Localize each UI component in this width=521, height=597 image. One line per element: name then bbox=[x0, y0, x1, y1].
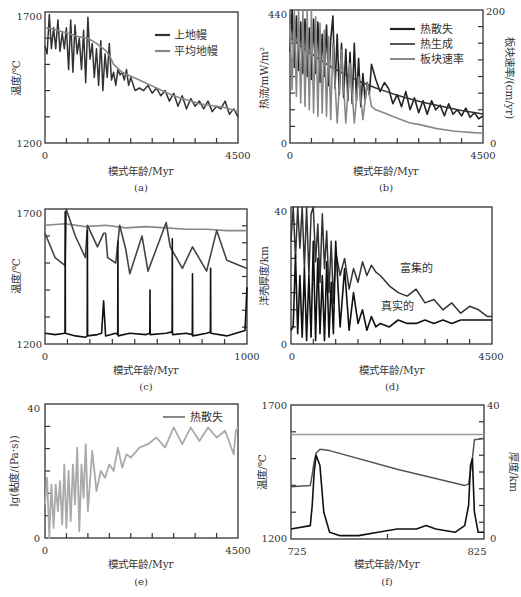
caption-e: (e) bbox=[134, 576, 148, 587]
ticks-c bbox=[45, 226, 247, 344]
ytick-bottom-a: 1200 bbox=[17, 138, 42, 149]
legend-item-mean-mantle: 平均地幔 bbox=[174, 45, 218, 58]
ylabel-a: 温度/℃ bbox=[10, 60, 22, 96]
series-e bbox=[45, 427, 238, 538]
ytick-right-top-f: 40 bbox=[487, 400, 500, 411]
series-line bbox=[45, 224, 247, 231]
xtick-right-b: 4500 bbox=[470, 150, 495, 161]
panel-d: 40 0 0 4500 洋壳厚度/km 模式年龄/Myr (d) 富集的 真实的 bbox=[258, 206, 504, 392]
panel-b: 440 0 200 0 0 4500 热流/mW/m² 板块速率/(cm/yr)… bbox=[258, 6, 516, 193]
xtick-left-f: 725 bbox=[287, 546, 306, 557]
xlabel-e: 模式年龄/Myr bbox=[108, 558, 174, 570]
xtick-left-c: 0 bbox=[42, 351, 48, 362]
ytick-top-a: 1700 bbox=[17, 11, 42, 22]
annotation-enriched: 富集的 bbox=[400, 261, 433, 275]
ytick-top-f: 1700 bbox=[262, 400, 287, 411]
ytick-top-d: 40 bbox=[274, 206, 287, 217]
xlabel-b: 模式年龄/Myr bbox=[353, 165, 419, 177]
ytick-bottom-c: 1200 bbox=[17, 339, 42, 350]
ytick-right-bottom-b: 0 bbox=[490, 138, 496, 149]
xtick-left-d: 0 bbox=[289, 351, 295, 362]
ytick-bottom-e: 0 bbox=[34, 533, 40, 544]
ylabel-b: 热流/mW/m² bbox=[258, 47, 270, 109]
series-c bbox=[45, 209, 247, 337]
legend-item-heat-loss-e: 热散失 bbox=[190, 410, 223, 424]
xtick-right-c: 1000 bbox=[234, 351, 259, 362]
series-f bbox=[291, 435, 484, 536]
xtick-right-f: 825 bbox=[467, 546, 486, 557]
ytick-right-top-b: 200 bbox=[486, 6, 505, 17]
panel-e: 40 0 0 4500 lg(黏度/(Pa·s)) 模式年龄/Myr (e) 热… bbox=[8, 403, 251, 587]
caption-c: (c) bbox=[139, 381, 153, 392]
ytick-bottom-b: 0 bbox=[281, 138, 287, 149]
figure-canvas: 1700 1200 0 4500 温度/℃ 模式年龄/Myr (a) 上地幔 平… bbox=[0, 0, 521, 597]
series-d bbox=[291, 207, 492, 341]
ticks-f bbox=[291, 422, 484, 539]
legend-a: 上地幔 平均地幔 bbox=[155, 29, 218, 58]
caption-a: (a) bbox=[134, 182, 148, 193]
ylabel-e: lg(黏度/(Pa·s)) bbox=[8, 435, 20, 507]
legend-item-heat-production: 热生成 bbox=[420, 37, 453, 51]
legend-item-upper-mantle: 上地幔 bbox=[174, 29, 207, 42]
series-a bbox=[45, 15, 238, 117]
plot-frame-a bbox=[45, 12, 238, 143]
legend-e: 热散失 bbox=[163, 410, 223, 424]
panel-c: 1700 1200 0 1000 温度/℃ 模式年龄/Myr (c) bbox=[10, 208, 260, 392]
panel-f: 1700 1200 40 0 725 825 温度/℃ 厚度/km 模式年龄/M… bbox=[256, 400, 520, 587]
annotation-real: 真实的 bbox=[381, 299, 414, 313]
ylabel-c: 温度/℃ bbox=[10, 258, 22, 294]
series-line bbox=[45, 15, 238, 117]
ylabel-right-b: 板块速率/(cm/yr) bbox=[504, 37, 516, 119]
ytick-bottom-f: 1200 bbox=[262, 533, 287, 544]
series-line bbox=[290, 10, 483, 133]
ytick-bottom-d: 0 bbox=[281, 339, 287, 350]
ylabel-f: 温度/℃ bbox=[256, 454, 268, 490]
caption-d: (d) bbox=[385, 381, 399, 392]
xtick-right-d: 4500 bbox=[478, 351, 503, 362]
ytick-top-b: 440 bbox=[268, 9, 287, 20]
series-line bbox=[45, 427, 238, 538]
panel-a: 1700 1200 0 4500 温度/℃ 模式年龄/Myr (a) 上地幔 平… bbox=[10, 11, 251, 193]
xlabel-d: 模式年龄/Myr bbox=[359, 364, 425, 376]
xtick-right-a: 4500 bbox=[225, 150, 250, 161]
xtick-left-a: 0 bbox=[42, 150, 48, 161]
series-b bbox=[290, 10, 483, 133]
xlabel-a: 模式年龄/Myr bbox=[108, 165, 174, 177]
xlabel-c: 模式年龄/Myr bbox=[113, 364, 179, 376]
ytick-top-c: 1700 bbox=[17, 208, 42, 219]
caption-b: (b) bbox=[379, 182, 393, 193]
ytick-top-e: 40 bbox=[27, 403, 40, 414]
legend-item-plate-speed: 板块速率 bbox=[420, 52, 464, 66]
ylabel-right-f: 厚度/km bbox=[508, 452, 520, 492]
ytick-right-bottom-f: 0 bbox=[490, 533, 496, 544]
legend-item-heat-loss: 热散失 bbox=[420, 22, 453, 36]
caption-f: (f) bbox=[381, 576, 393, 587]
xlabel-f: 模式年龄/Myr bbox=[354, 558, 420, 570]
ylabel-d: 洋壳厚度/km bbox=[258, 246, 270, 306]
xtick-left-e: 0 bbox=[42, 545, 48, 556]
legend-b: 热散失 热生成 板块速率 bbox=[390, 22, 464, 66]
series-line bbox=[45, 209, 247, 274]
series-line bbox=[291, 439, 484, 487]
xtick-right-e: 4500 bbox=[225, 545, 250, 556]
xtick-left-b: 0 bbox=[287, 150, 293, 161]
